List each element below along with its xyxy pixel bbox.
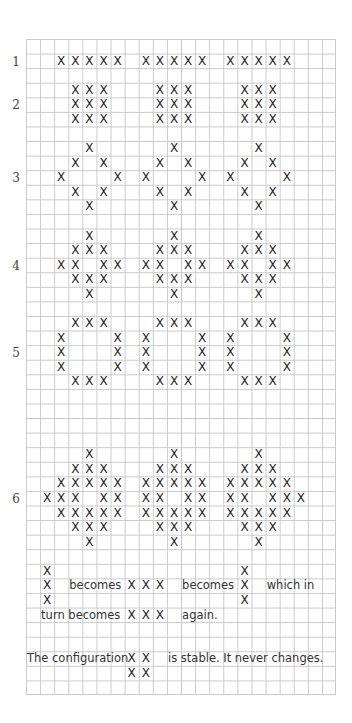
pattern-5-cell: X: [139, 331, 153, 346]
pattern-6-cell: X: [181, 462, 195, 477]
pattern-4-cell: X: [238, 243, 252, 258]
pattern-1-cell: X: [68, 54, 82, 69]
pattern-4-cell: X: [223, 258, 237, 273]
pattern-6-cell: X: [68, 491, 82, 506]
pattern-6-cell: X: [82, 506, 96, 521]
pattern-1-cell: X: [238, 54, 252, 69]
pattern-1-cell: X: [153, 54, 167, 69]
pattern-5-cell: X: [153, 374, 167, 389]
pattern-5-cell: X: [97, 316, 111, 331]
pattern-3-cell: X: [223, 170, 237, 185]
pattern-4-cell: X: [97, 243, 111, 258]
pattern-6-cell: X: [54, 476, 68, 491]
pattern-5-cell: X: [252, 316, 266, 331]
pattern-6-cell: X: [97, 462, 111, 477]
pattern-4-cell: X: [238, 258, 252, 273]
pattern-6-cell: X: [252, 476, 266, 491]
pattern-3-cell: X: [266, 185, 280, 200]
explanation-cell: X: [125, 666, 139, 681]
pattern-4-cell: X: [97, 272, 111, 287]
pattern-4-cell: X: [68, 272, 82, 287]
pattern-3-cell: X: [153, 185, 167, 200]
pattern-4-cell: X: [266, 272, 280, 287]
pattern-5-cell: X: [167, 374, 181, 389]
explanation-cell: X: [139, 666, 153, 681]
pattern-number-label: 3: [10, 171, 22, 185]
pattern-1-cell: X: [82, 54, 96, 69]
pattern-6-cell: X: [181, 520, 195, 535]
pattern-2-cell: X: [238, 112, 252, 127]
pattern-5-cell: X: [111, 360, 125, 375]
pattern-1-cell: X: [223, 54, 237, 69]
pattern-3-cell: X: [82, 141, 96, 156]
pattern-6-cell: X: [252, 462, 266, 477]
pattern-1-cell: X: [195, 54, 209, 69]
pattern-2-cell: X: [252, 112, 266, 127]
pattern-6-cell: X: [252, 535, 266, 550]
pattern-4-cell: X: [252, 272, 266, 287]
pattern-2-cell: X: [181, 83, 195, 98]
pattern-6-cell: X: [252, 447, 266, 462]
pattern-4-cell: X: [82, 287, 96, 302]
pattern-4-cell: X: [153, 243, 167, 258]
pattern-5-cell: X: [223, 345, 237, 360]
pattern-2-cell: X: [266, 83, 280, 98]
pattern-4-cell: X: [266, 243, 280, 258]
explanation-text: becomes: [69, 578, 121, 593]
pattern-number-label: 1: [10, 55, 22, 69]
pattern-3-cell: X: [153, 156, 167, 171]
pattern-3-cell: X: [54, 170, 68, 185]
pattern-6-cell: X: [266, 476, 280, 491]
pattern-6-cell: X: [266, 491, 280, 506]
pattern-3-cell: X: [97, 185, 111, 200]
explanation-cell: X: [40, 593, 54, 608]
pattern-2-cell: X: [153, 112, 167, 127]
pattern-2-cell: X: [181, 112, 195, 127]
pattern-5-cell: X: [54, 331, 68, 346]
pattern-6-cell: X: [167, 506, 181, 521]
pattern-1-cell: X: [139, 54, 153, 69]
explanation-text: turn becomes: [41, 608, 120, 623]
pattern-3-cell: X: [266, 156, 280, 171]
pattern-4-cell: X: [153, 272, 167, 287]
pattern-6-cell: X: [280, 506, 294, 521]
pattern-1-cell: X: [252, 54, 266, 69]
pattern-4-cell: X: [181, 272, 195, 287]
pattern-2-cell: X: [238, 83, 252, 98]
pattern-2-cell: X: [167, 83, 181, 98]
pattern-number-label: 2: [10, 98, 22, 112]
pattern-6-cell: X: [266, 520, 280, 535]
pattern-1-cell: X: [111, 54, 125, 69]
pattern-1-cell: X: [181, 54, 195, 69]
pattern-5-cell: X: [223, 360, 237, 375]
pattern-5-cell: X: [111, 331, 125, 346]
pattern-1-cell: X: [280, 54, 294, 69]
pattern-5-cell: X: [280, 345, 294, 360]
pattern-3-cell: X: [181, 185, 195, 200]
explanation-cell: X: [125, 578, 139, 593]
pattern-5-cell: X: [181, 374, 195, 389]
pattern-5-cell: X: [82, 316, 96, 331]
pattern-3-cell: X: [139, 170, 153, 185]
pattern-6-cell: X: [195, 491, 209, 506]
pattern-6-cell: X: [139, 491, 153, 506]
explanation-text: again.: [182, 608, 218, 623]
pattern-4-cell: X: [111, 258, 125, 273]
pattern-5-cell: X: [167, 316, 181, 331]
pattern-5-cell: X: [111, 345, 125, 360]
pattern-4-cell: X: [252, 229, 266, 244]
pattern-2-cell: X: [238, 97, 252, 112]
pattern-6-cell: X: [167, 476, 181, 491]
pattern-4-cell: X: [54, 258, 68, 273]
pattern-6-cell: X: [195, 506, 209, 521]
explanation-cell: X: [40, 578, 54, 593]
pattern-number-label: 6: [10, 492, 22, 506]
pattern-5-cell: X: [238, 316, 252, 331]
pattern-5-cell: X: [82, 374, 96, 389]
pattern-2-cell: X: [266, 112, 280, 127]
pattern-6-cell: X: [238, 462, 252, 477]
pattern-5-cell: X: [252, 374, 266, 389]
pattern-6-cell: X: [111, 506, 125, 521]
pattern-6-cell: X: [238, 506, 252, 521]
pattern-2-cell: X: [266, 97, 280, 112]
